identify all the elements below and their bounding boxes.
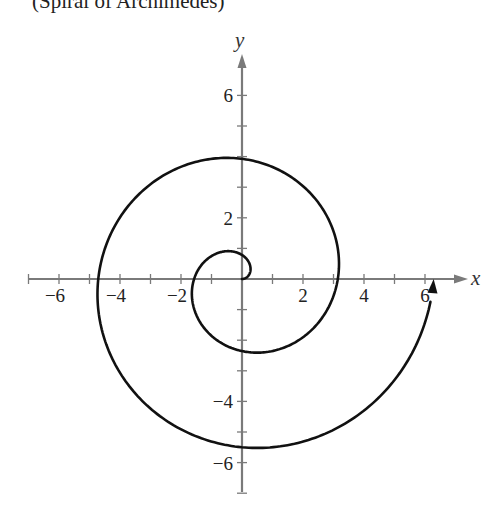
x-tick-label: 2 xyxy=(298,285,308,306)
axes xyxy=(28,54,468,492)
plot-area: −6−4−224662−4−6 x y xyxy=(0,0,504,510)
x-tick-label: −4 xyxy=(106,285,127,306)
y-tick-label: 2 xyxy=(224,208,234,229)
x-tick-label: −2 xyxy=(167,285,187,306)
x-tick-label: 4 xyxy=(359,285,369,306)
x-tick-label: 6 xyxy=(420,285,430,306)
y-axis-label: y xyxy=(233,28,245,52)
x-tick-label: −6 xyxy=(45,285,65,306)
spiral-curve xyxy=(97,158,430,448)
y-tick-label: −6 xyxy=(213,453,233,474)
x-axis-label: x xyxy=(470,266,481,290)
y-tick-label: −4 xyxy=(213,391,234,412)
x-axis-arrow-icon xyxy=(454,275,468,284)
y-axis-arrow-icon xyxy=(238,54,247,68)
y-tick-label: 6 xyxy=(224,85,234,106)
